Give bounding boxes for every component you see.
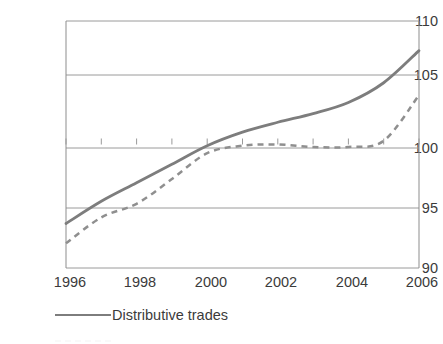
legend-swatch-solid xyxy=(55,314,111,316)
legend-swatch-dashed xyxy=(55,340,111,342)
legend-item-distributive-trades: Distributive trades xyxy=(55,305,228,325)
legend-label-distributive-trades: Distributive trades xyxy=(112,307,228,323)
series-line-distributive-trades xyxy=(66,51,419,224)
x-axis-ticks xyxy=(66,139,419,145)
legend-item-secondary xyxy=(55,331,112,344)
series-line-dashed xyxy=(66,95,419,243)
